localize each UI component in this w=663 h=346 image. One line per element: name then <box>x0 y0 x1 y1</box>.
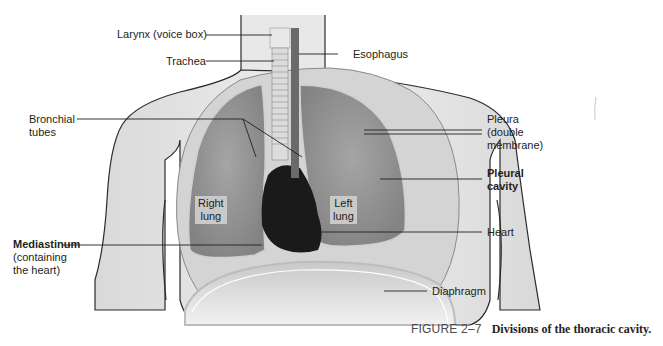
stray-mark <box>595 97 596 120</box>
label-pleura: Pleura (double membrane) <box>487 113 543 152</box>
figure-number: FIGURE 2–7 <box>411 322 482 336</box>
label-heart: Heart <box>487 226 514 239</box>
label-larynx: Larynx (voice box) <box>117 28 207 41</box>
anatomy-illustration <box>0 0 663 346</box>
thoracic-cavity-diagram: Larynx (voice box) Trachea Esophagus Bro… <box>0 0 663 346</box>
label-trachea: Trachea <box>166 55 206 68</box>
label-bronchial-tubes: Bronchial tubes <box>29 113 75 139</box>
label-diaphragm: Diaphragm <box>432 285 486 298</box>
trachea-shape <box>270 28 290 160</box>
label-right-lung: Right lung <box>195 196 227 224</box>
esophagus-shape <box>291 28 299 178</box>
label-pleural-cavity: Pleural cavity <box>487 167 524 193</box>
label-left-lung: Left lung <box>330 196 357 224</box>
label-mediastinum: Mediastinum (containing the heart) <box>13 238 80 277</box>
figure-title: Divisions of the thoracic cavity. <box>492 322 652 336</box>
figure-caption: FIGURE 2–7Divisions of the thoracic cavi… <box>411 322 651 337</box>
label-esophagus: Esophagus <box>353 48 408 61</box>
